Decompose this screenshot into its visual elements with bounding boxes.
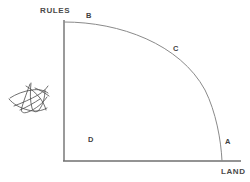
- handwritten-scribble-icon: [9, 83, 49, 113]
- point-label-c: C: [173, 45, 178, 53]
- point-label-d: D: [88, 136, 93, 144]
- point-label-b: B: [86, 12, 91, 20]
- point-label-a: A: [225, 138, 230, 146]
- diagram-canvas: RULES LAND A B C D: [0, 0, 250, 182]
- x-axis-label: LAND: [221, 167, 246, 176]
- ppf-diagram: [0, 0, 250, 182]
- y-axis-label: RULES: [40, 6, 70, 15]
